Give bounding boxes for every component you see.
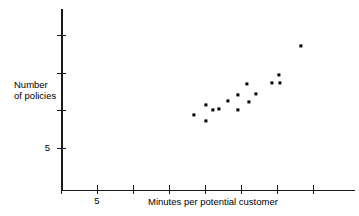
y-axis-tick: [57, 148, 66, 149]
x-axis-tick: [133, 185, 134, 194]
data-point: [245, 82, 248, 85]
x-axis-title: Minutes per potential customer: [148, 196, 278, 207]
data-point: [211, 108, 214, 111]
data-point: [217, 107, 220, 110]
data-point: [277, 73, 280, 76]
data-point: [204, 103, 207, 106]
x-axis-tick: [205, 185, 206, 194]
y-axis-title-line-2: of policies: [14, 90, 56, 101]
scatterplot-chart: 5 5 Number of policies Minutes per poten…: [0, 0, 359, 216]
y-axis-tick: [57, 73, 66, 74]
data-point: [278, 81, 281, 84]
data-point: [299, 44, 302, 47]
y-axis-tick: [57, 110, 66, 111]
x-axis-tick: [169, 185, 170, 194]
data-point: [236, 93, 239, 96]
data-point: [247, 100, 250, 103]
data-point: [236, 108, 239, 111]
plot-area: [0, 0, 359, 216]
y-axis-tick-label: 5: [36, 143, 50, 153]
y-axis-tick: [57, 35, 66, 36]
x-axis-tick: [313, 185, 314, 194]
data-point: [254, 92, 257, 95]
data-point: [204, 119, 207, 122]
x-axis-tick: [277, 185, 278, 194]
x-axis-tick: [241, 185, 242, 194]
data-point: [226, 99, 229, 102]
x-axis-tick-label: 5: [90, 196, 104, 206]
data-point: [192, 113, 195, 116]
data-point: [270, 81, 273, 84]
y-axis-title-line-1: Number: [14, 79, 56, 90]
x-axis-tick: [97, 185, 98, 194]
x-axis-line: [61, 190, 355, 192]
y-axis-title: Number of policies: [14, 79, 56, 101]
x-axis-tick: [61, 185, 62, 194]
